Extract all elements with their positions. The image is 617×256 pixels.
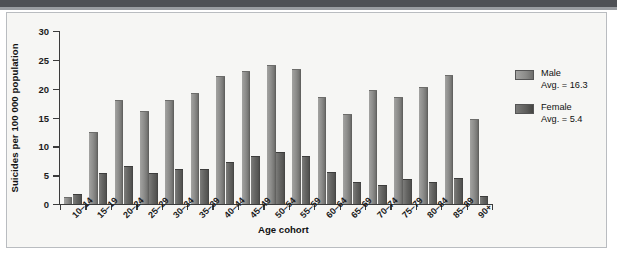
bar-male xyxy=(318,97,327,204)
bar-female xyxy=(149,173,158,204)
bar-male xyxy=(292,69,301,204)
bar-male xyxy=(470,119,479,204)
y-axis-tick-label: 15 xyxy=(38,112,49,123)
x-axis-title: Age cohort xyxy=(258,224,309,235)
legend-average-female: Avg. = 5.4 xyxy=(541,114,600,126)
y-axis-tick-label: 30 xyxy=(38,26,49,37)
bar-group xyxy=(289,31,314,204)
bar-female xyxy=(99,173,108,204)
legend-entry-male: Male Avg. = 16.3 xyxy=(515,68,600,91)
y-axis-tick xyxy=(53,31,60,32)
bar-male xyxy=(242,71,251,204)
bar-male xyxy=(369,90,378,204)
plot-area: 051015202530 10–1415–1920–2425–2930–3435… xyxy=(60,31,492,204)
bar-male xyxy=(267,65,276,204)
bar-group xyxy=(85,31,110,204)
y-axis-tick-label: 0 xyxy=(44,199,49,210)
bar-female xyxy=(251,156,260,204)
bar-group xyxy=(238,31,263,204)
bar-male xyxy=(165,100,174,204)
bar-male xyxy=(89,132,98,204)
legend-swatch-male-icon xyxy=(515,70,534,80)
bar-female xyxy=(454,178,463,204)
bar-female xyxy=(175,169,184,204)
y-axis-tick xyxy=(53,118,60,119)
bar-male xyxy=(343,114,352,204)
bar-group xyxy=(60,31,85,204)
bar-male xyxy=(394,97,403,204)
bar-group xyxy=(162,31,187,204)
bar-female xyxy=(276,152,285,204)
chart-legend: Male Avg. = 16.3 Female Avg. = 5.4 xyxy=(515,68,600,136)
bar-male xyxy=(64,197,73,204)
bar-group xyxy=(314,31,339,204)
y-axis-tick xyxy=(53,89,60,90)
bar-female xyxy=(200,169,209,204)
bar-female xyxy=(226,162,235,204)
bar-group xyxy=(365,31,390,204)
scan-edge-band-top xyxy=(0,0,617,7)
legend-swatch-female-icon xyxy=(515,104,534,114)
bar-group xyxy=(263,31,288,204)
bar-female xyxy=(327,172,336,204)
x-axis-tick xyxy=(60,204,61,210)
bar-female xyxy=(403,179,412,204)
bar-group xyxy=(441,31,466,204)
bar-group xyxy=(416,31,441,204)
bar-female xyxy=(302,156,311,204)
bar-male xyxy=(191,93,200,204)
y-axis-tick xyxy=(53,204,60,205)
bar-group xyxy=(340,31,365,204)
y-axis-tick-label: 25 xyxy=(38,54,49,65)
y-axis-title: Suicides per 100 000 population xyxy=(9,43,20,192)
y-axis-tick-label: 20 xyxy=(38,83,49,94)
bar-group xyxy=(390,31,415,204)
bar-group xyxy=(136,31,161,204)
bar-male xyxy=(115,100,124,204)
scan-edge-band-top-secondary xyxy=(0,7,617,10)
bar-male xyxy=(216,76,225,204)
y-axis-tick xyxy=(53,175,60,176)
bar-group xyxy=(212,31,237,204)
y-axis-tick-label: 10 xyxy=(38,141,49,152)
x-axis-line xyxy=(59,204,493,205)
chart-figure: Suicides per 100 000 population Age coho… xyxy=(0,0,617,256)
legend-label-male: Male xyxy=(541,68,600,80)
bar-male xyxy=(140,111,149,204)
y-axis-tick xyxy=(53,60,60,61)
legend-label-female: Female xyxy=(541,102,600,114)
y-axis-tick-label: 5 xyxy=(44,170,49,181)
bar-group xyxy=(467,31,492,204)
y-axis-tick xyxy=(53,146,60,147)
bar-group xyxy=(111,31,136,204)
bar-male xyxy=(419,87,428,204)
legend-average-male: Avg. = 16.3 xyxy=(541,80,600,92)
bar-male xyxy=(445,75,454,204)
bar-female xyxy=(124,166,133,204)
legend-entry-female: Female Avg. = 5.4 xyxy=(515,102,600,125)
bar-group xyxy=(187,31,212,204)
